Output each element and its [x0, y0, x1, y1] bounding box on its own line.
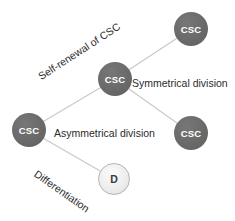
node-csc-bottom-right: CSC — [174, 116, 208, 150]
node-csc-left: CSC — [12, 113, 46, 147]
node-csc-top-right: CSC — [174, 12, 208, 46]
csc-division-diagram: Self-renewal of CSC Symmetrical division… — [0, 0, 235, 221]
label-asymmetrical-division: Asymmetrical division — [54, 127, 155, 139]
node-csc-middle: CSC — [98, 62, 132, 96]
label-symmetrical-division: Symmetrical division — [132, 77, 228, 89]
node-differentiated-cell: D — [98, 163, 130, 195]
